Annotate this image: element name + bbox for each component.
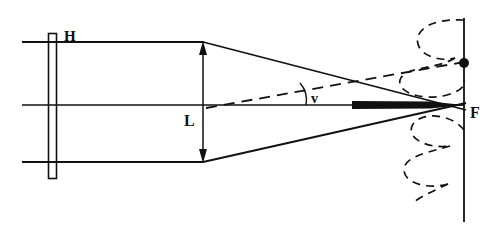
- convergence-angle-label: v: [311, 92, 318, 106]
- aperture-label: H: [64, 29, 76, 44]
- beam-width-label: L: [184, 113, 195, 129]
- side-lobes-upper: [400, 20, 465, 97]
- angle-dashed-ray: [206, 62, 464, 108]
- upper-converging-ray: [203, 42, 466, 110]
- focal-dot: [459, 58, 469, 68]
- figure-canvas: H L v F: [0, 0, 495, 234]
- angle-arc: [300, 83, 306, 105]
- focus-label: F: [470, 105, 480, 121]
- beam-width-arrow: [199, 41, 207, 163]
- aperture-rectangle: [49, 34, 57, 179]
- lower-converging-ray: [203, 103, 466, 162]
- side-lobes-lower: [404, 116, 464, 204]
